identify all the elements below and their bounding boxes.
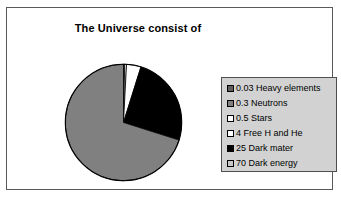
legend-label: 0.03 Heavy elements bbox=[236, 84, 321, 93]
legend-item[interactable]: 0.3 Neutrons bbox=[227, 96, 336, 111]
pie-chart-svg bbox=[64, 63, 183, 182]
pie-slice-group bbox=[65, 64, 181, 180]
legend-swatch-heavy-elements-icon bbox=[227, 85, 234, 92]
legend-item[interactable]: 0.5 Stars bbox=[227, 111, 336, 126]
pie-plot-area bbox=[64, 63, 183, 182]
legend-swatch-stars-icon bbox=[227, 115, 234, 122]
legend-swatch-free-h-and-he-icon bbox=[227, 130, 234, 137]
legend-item[interactable]: 4 Free H and He bbox=[227, 126, 336, 141]
chart-legend: 0.03 Heavy elements 0.3 Neutrons 0.5 Sta… bbox=[221, 77, 337, 172]
legend-label: 70 Dark energy bbox=[236, 159, 298, 168]
legend-label: 25 Dark mater bbox=[236, 144, 293, 153]
legend-swatch-dark-mater-icon bbox=[227, 145, 234, 152]
legend-item[interactable]: 0.03 Heavy elements bbox=[227, 81, 336, 96]
chart-frame: The Universe consist of 0.03 Heavy eleme… bbox=[6, 7, 333, 190]
legend-label: 0.5 Stars bbox=[236, 114, 272, 123]
chart-title: The Universe consist of bbox=[53, 22, 223, 34]
legend-label: 0.3 Neutrons bbox=[236, 99, 288, 108]
legend-swatch-dark-energy-icon bbox=[227, 160, 234, 167]
legend-item[interactable]: 25 Dark mater bbox=[227, 141, 336, 156]
chart-screenshot: The Universe consist of 0.03 Heavy eleme… bbox=[0, 0, 341, 203]
legend-label: 4 Free H and He bbox=[236, 129, 303, 138]
legend-swatch-neutrons-icon bbox=[227, 100, 234, 107]
legend-item[interactable]: 70 Dark energy bbox=[227, 156, 336, 171]
